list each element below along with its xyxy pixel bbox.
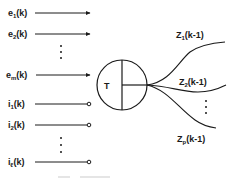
- label-i1: i1(k): [8, 99, 25, 110]
- caption-faint: [58, 176, 110, 178]
- ellipsis-z: [205, 100, 207, 114]
- label-i2: i2(k): [8, 120, 25, 131]
- input-il: iℓ(k): [8, 157, 91, 168]
- label-zp: Zp(k-1): [177, 134, 205, 145]
- input-em: em(k): [6, 70, 90, 81]
- output-z2: Z2(k-1): [179, 77, 207, 88]
- output-z1: Z1(k-1): [176, 30, 204, 41]
- label-e1: e1(k): [8, 8, 27, 19]
- terminal-il: [87, 160, 91, 164]
- t-block-label: T: [104, 81, 110, 91]
- label-e2: e2(k): [8, 29, 27, 40]
- terminal-i1: [87, 102, 91, 106]
- input-i2: i2(k): [8, 120, 91, 131]
- ellipsis-e: [60, 45, 62, 59]
- input-i1: i1(k): [8, 99, 91, 110]
- label-il: iℓ(k): [8, 157, 24, 168]
- label-em: em(k): [6, 70, 27, 81]
- t-block: T: [97, 60, 147, 110]
- ellipsis-i: [60, 137, 62, 153]
- curve-z1: [147, 42, 225, 85]
- output-zp: Zp(k-1): [177, 134, 205, 145]
- block-diagram: e1(k) e2(k) em(k) i1(k) i2(k) iℓ(k): [0, 0, 231, 183]
- input-e1: e1(k): [8, 8, 90, 19]
- input-e2: e2(k): [8, 29, 90, 40]
- label-z2: Z2(k-1): [179, 77, 207, 88]
- label-z1: Z1(k-1): [176, 30, 204, 41]
- terminal-i2: [87, 123, 91, 127]
